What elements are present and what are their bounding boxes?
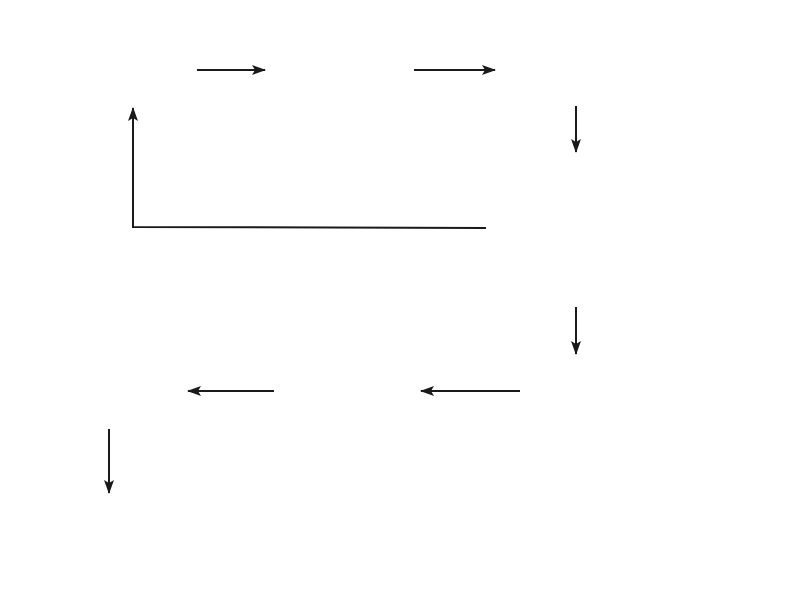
edge-decision-no-to-search-htm (133, 108, 486, 228)
flowchart-canvas (0, 0, 793, 612)
